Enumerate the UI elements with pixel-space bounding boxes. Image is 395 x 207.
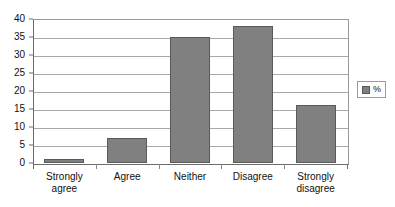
bar-slot xyxy=(159,19,222,163)
x-axis-tick-label: Strongly disagree xyxy=(284,171,347,195)
bar-slot xyxy=(284,19,347,163)
legend-swatch-icon xyxy=(362,86,370,94)
y-axis-tick-label: 30 xyxy=(14,50,25,60)
bar-slot xyxy=(96,19,159,163)
bar-slot xyxy=(221,19,284,163)
bar xyxy=(44,159,84,163)
x-axis-tick-label: Strongly agree xyxy=(33,171,96,195)
x-axis-tick-mark xyxy=(221,164,222,169)
bar xyxy=(233,26,273,163)
x-axis-tick-label: Disagree xyxy=(221,171,284,183)
x-axis-tick-mark xyxy=(159,164,160,169)
bar xyxy=(107,138,147,163)
x-axis-tick-mark xyxy=(96,164,97,169)
x-axis-tick-label: Neither xyxy=(159,171,222,183)
y-axis: 0510152025303540 xyxy=(0,0,33,207)
bars-layer xyxy=(33,19,347,163)
legend-label: % xyxy=(373,85,381,94)
x-axis-tick-label: Agree xyxy=(96,171,159,183)
y-axis-tick-label: 35 xyxy=(14,32,25,42)
x-axis: Strongly agreeAgreeNeitherDisagreeStrong… xyxy=(33,164,349,207)
bar-chart: 0510152025303540 Strongly agreeAgreeNeit… xyxy=(0,0,395,207)
legend: % xyxy=(357,81,386,98)
bar xyxy=(296,105,336,163)
y-axis-tick-label: 40 xyxy=(14,14,25,24)
y-axis-tick-label: 25 xyxy=(14,68,25,78)
x-axis-tick-mark xyxy=(347,164,348,169)
y-axis-tick-label: 10 xyxy=(14,122,25,132)
x-axis-tick-mark xyxy=(284,164,285,169)
y-axis-tick-label: 0 xyxy=(19,158,25,168)
y-axis-tick-label: 20 xyxy=(14,86,25,96)
bar xyxy=(170,37,210,163)
x-axis-tick-mark xyxy=(33,164,34,169)
bar-slot xyxy=(33,19,96,163)
y-axis-tick-label: 5 xyxy=(19,140,25,150)
y-axis-tick-label: 15 xyxy=(14,104,25,114)
